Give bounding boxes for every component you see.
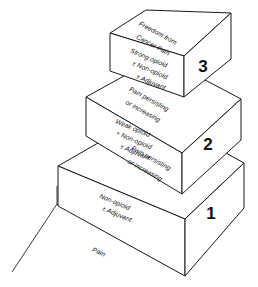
base-label-pain: Pain [91, 246, 106, 258]
step-2-number: 2 [203, 135, 212, 154]
step-3-number: 3 [198, 57, 207, 76]
base-label-group: Pain [91, 246, 106, 258]
who-analgesic-ladder-figure: Pain Pain persisting or increasing Non-o… [0, 0, 258, 287]
step-1-number: 1 [206, 204, 215, 223]
ladder-diagram: Pain Pain persisting or increasing Non-o… [0, 0, 258, 287]
ground-left-edge [12, 204, 57, 272]
